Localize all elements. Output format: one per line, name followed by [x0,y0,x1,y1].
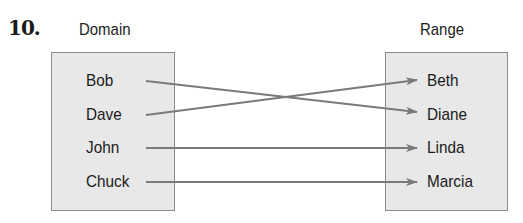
mapping-arrows [0,0,523,223]
